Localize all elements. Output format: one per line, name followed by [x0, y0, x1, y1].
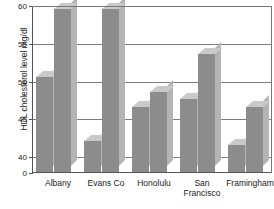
bar-face [54, 9, 71, 172]
y-axis-tick-label: 40 [18, 153, 27, 162]
chart-container: HDL cholesterol level mg/dl 60555045400 … [0, 0, 274, 209]
bar [54, 9, 71, 172]
bar-face [36, 77, 53, 172]
x-axis-category-label: Albany [45, 178, 71, 188]
y-axis-tick-label: 0 [23, 169, 27, 178]
bar [132, 107, 149, 172]
bar-side-face [167, 80, 173, 166]
y-axis-tick-label: 55 [18, 39, 27, 48]
bar-side-face [215, 42, 221, 166]
bar-face [132, 107, 149, 172]
x-axis-category-label: San Francisco [184, 178, 221, 198]
y-axis-tick-label: 60 [18, 2, 27, 11]
bar [180, 99, 197, 172]
bar-face [84, 141, 101, 172]
bar-side-face [71, 0, 77, 166]
bar [102, 9, 119, 172]
bar [150, 92, 167, 172]
x-axis-category-label: Honolulu [137, 178, 171, 188]
x-axis-category-label: Framingham [226, 178, 274, 188]
bar [246, 107, 263, 172]
bar [84, 141, 101, 172]
bar-side-face [119, 0, 125, 166]
plot-area: 60555045400 [32, 6, 272, 173]
bar-face [180, 99, 197, 172]
y-axis-tick-label: 45 [18, 115, 27, 124]
bar-face [198, 54, 215, 172]
x-axis-category-label: Evans Co [88, 178, 125, 188]
plot-frame-right [271, 6, 272, 173]
plot-frame-top [32, 6, 272, 7]
bar-face [228, 145, 245, 172]
bar [228, 145, 245, 172]
bar-face [102, 9, 119, 172]
bar [198, 54, 215, 172]
y-axis-tick-label: 50 [18, 77, 27, 86]
bar-face [150, 92, 167, 172]
bar [36, 77, 53, 172]
y-axis-tick [29, 173, 33, 174]
bar-face [246, 107, 263, 172]
bars-group [33, 6, 272, 172]
